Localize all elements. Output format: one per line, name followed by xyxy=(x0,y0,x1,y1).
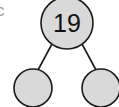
connector-line-right xyxy=(82,44,96,70)
part-circle-left xyxy=(14,69,52,107)
connector-line-left xyxy=(38,44,52,70)
number-bond-diagram: c 19 xyxy=(0,0,119,107)
part-label: c xyxy=(0,1,5,20)
part-circle-right xyxy=(82,69,119,107)
whole-value: 19 xyxy=(53,9,81,37)
